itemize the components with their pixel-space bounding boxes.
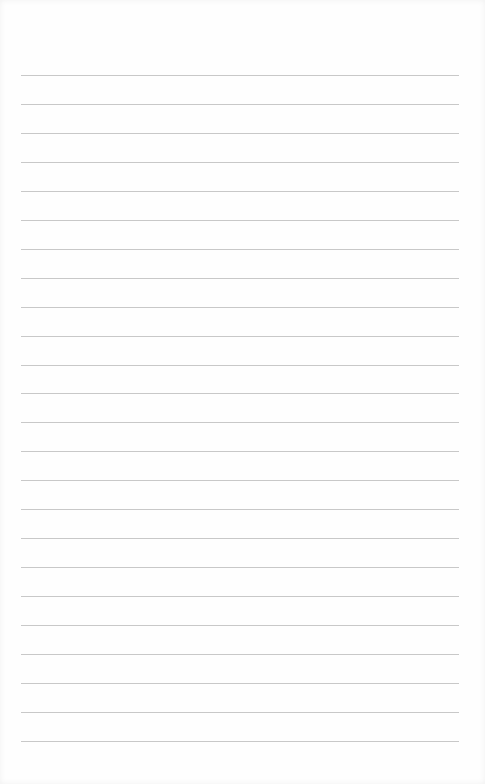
ruled-line [21,625,459,626]
ruled-line [21,712,459,713]
ruled-line [21,451,459,452]
ruled-line [21,741,459,742]
ruled-line [21,278,459,279]
ruled-line [21,596,459,597]
ruled-line [21,365,459,366]
ruled-line [21,75,459,76]
ruled-line [21,480,459,481]
ruled-line [21,307,459,308]
lined-paper [0,0,485,784]
ruled-line [21,654,459,655]
ruled-line [21,422,459,423]
ruled-line [21,162,459,163]
ruled-line [21,133,459,134]
ruled-line [21,509,459,510]
ruled-line [21,393,459,394]
ruled-line [21,538,459,539]
ruled-line [21,567,459,568]
ruled-line [21,336,459,337]
ruled-line [21,683,459,684]
ruled-line [21,249,459,250]
ruled-line [21,191,459,192]
ruled-line [21,220,459,221]
ruled-line [21,104,459,105]
